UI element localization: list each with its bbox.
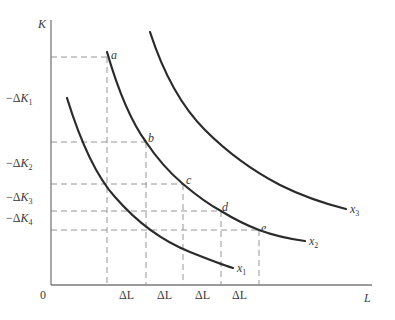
curve-label-x3: x3: [350, 203, 359, 215]
isoquant-x2: [107, 52, 305, 241]
point-label-e: e: [261, 222, 266, 234]
point-label-c: c: [186, 174, 191, 186]
axes: [51, 20, 372, 285]
origin-label: 0: [40, 289, 46, 301]
curve-label-x2: x2: [309, 235, 318, 247]
isoquant-diagram: [0, 0, 395, 320]
x-tick-label-4: ΔL: [232, 289, 247, 301]
point-label-b: b: [148, 132, 154, 144]
point-label-a: a: [111, 49, 117, 61]
curve-label-x1: x1: [237, 262, 246, 274]
y-axis-label: K: [38, 18, 46, 30]
y-tick-label-4: −ΔK4: [6, 212, 33, 224]
curves: [67, 32, 346, 268]
x-tick-label-1: ΔL: [119, 289, 134, 301]
y-tick-label-1: −ΔK1: [6, 92, 33, 104]
isoquant-x3: [150, 32, 346, 209]
point-label-d: d: [222, 201, 228, 213]
x-tick-label-2: ΔL: [157, 289, 172, 301]
y-tick-label-2: −ΔK2: [6, 157, 33, 169]
dashed-guides: [51, 57, 259, 285]
y-tick-label-3: −ΔK3: [6, 191, 33, 203]
isoquant-x1: [67, 98, 233, 268]
x-tick-label-3: ΔL: [195, 289, 210, 301]
x-axis-label: L: [364, 292, 371, 304]
